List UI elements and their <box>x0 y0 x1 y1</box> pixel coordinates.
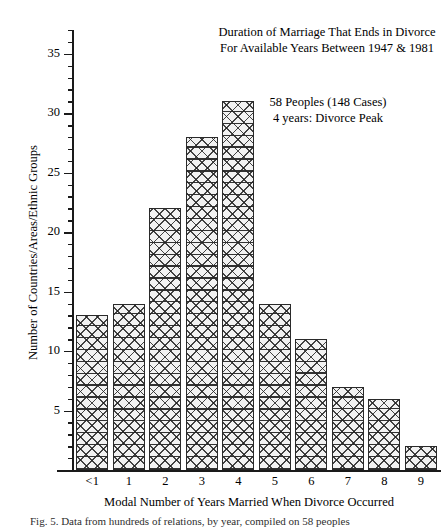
x-tick-label: 8 <box>366 474 403 489</box>
bar-3 <box>186 137 218 470</box>
bars-container <box>74 30 439 470</box>
bar-6 <box>295 339 327 470</box>
x-axis-line <box>57 470 441 472</box>
y-tick-minor <box>68 387 73 388</box>
y-tick-minor <box>68 315 73 316</box>
y-tick-minor <box>68 339 73 340</box>
y-tick-minor <box>68 375 73 376</box>
y-tick-minor <box>68 149 73 150</box>
x-tick-label: 1 <box>111 474 148 489</box>
y-tick-minor <box>68 208 73 209</box>
y-tick-minor <box>68 446 73 447</box>
y-tick-major <box>64 292 73 293</box>
y-tick-minor <box>68 101 73 102</box>
y-tick-label: 10 <box>20 344 60 357</box>
y-tick-major <box>64 173 73 174</box>
bar-8 <box>368 399 400 470</box>
y-tick-minor <box>68 78 73 79</box>
bar-9 <box>405 446 437 470</box>
x-tick-label: 5 <box>257 474 294 489</box>
y-tick-minor <box>68 30 73 31</box>
y-tick-major <box>64 351 73 352</box>
y-tick-minor <box>68 161 73 162</box>
y-tick-label: 5 <box>20 404 60 417</box>
x-axis-title: Modal Number of Years Married When Divor… <box>55 495 443 510</box>
y-tick-minor <box>68 434 73 435</box>
y-tick-minor <box>68 422 73 423</box>
y-tick-minor <box>68 89 73 90</box>
y-tick-label: 20 <box>20 225 60 238</box>
y-tick-minor <box>68 244 73 245</box>
x-tick-label: 9 <box>403 474 440 489</box>
y-tick-minor <box>68 137 73 138</box>
x-tick-label: 4 <box>220 474 257 489</box>
y-tick-minor <box>68 220 73 221</box>
y-tick-minor <box>68 125 73 126</box>
divorce-duration-bar-chart: Duration of Marriage That Ends in Divorc… <box>0 0 443 529</box>
figure-caption: Fig. 5. Data from hundreds of relations,… <box>30 515 443 529</box>
x-tick-label: 3 <box>184 474 221 489</box>
x-tick-label: <1 <box>74 474 111 489</box>
x-tick-label: 6 <box>293 474 330 489</box>
y-tick-minor <box>68 196 73 197</box>
y-tick-minor <box>68 363 73 364</box>
y-tick-minor <box>68 399 73 400</box>
y-tick-label: 25 <box>20 166 60 179</box>
y-tick-minor <box>68 42 73 43</box>
y-tick-minor <box>68 280 73 281</box>
x-tick-label: 2 <box>147 474 184 489</box>
y-tick-minor <box>68 268 73 269</box>
y-tick-major <box>64 411 73 412</box>
bar-1 <box>113 304 145 470</box>
y-tick-label: 35 <box>20 47 60 60</box>
bar-lt1 <box>76 315 108 470</box>
y-tick-label: 15 <box>20 285 60 298</box>
y-tick-minor <box>68 185 73 186</box>
bar-7 <box>332 387 364 470</box>
bar-2 <box>149 208 181 470</box>
y-tick-minor <box>68 327 73 328</box>
y-tick-minor <box>68 256 73 257</box>
y-tick-major <box>64 232 73 233</box>
y-tick-major <box>64 113 73 114</box>
y-tick-minor <box>68 304 73 305</box>
y-tick-label: 30 <box>20 106 60 119</box>
y-tick-minor <box>68 458 73 459</box>
bar-4 <box>222 101 254 470</box>
y-tick-major <box>64 54 73 55</box>
x-tick-label: 7 <box>330 474 367 489</box>
y-tick-minor <box>68 66 73 67</box>
bar-5 <box>259 304 291 470</box>
